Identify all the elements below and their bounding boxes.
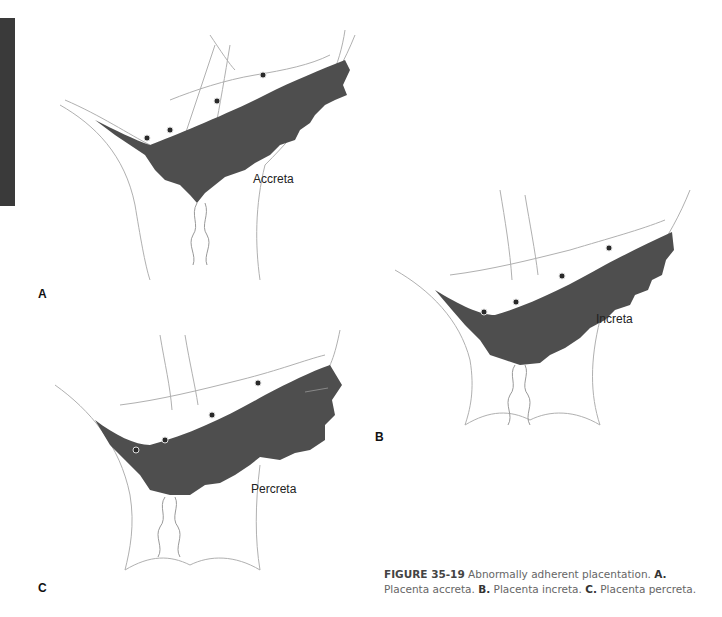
page-edge-tab	[0, 18, 15, 206]
uterus-accreta-illustration	[55, 5, 365, 280]
panel-letter-a: A	[38, 287, 47, 301]
panel-accreta	[55, 5, 365, 280]
uterus-percreta-illustration	[50, 325, 360, 580]
placenta-region	[95, 365, 342, 495]
figure-number: FIGURE 35-19	[384, 568, 465, 580]
placenta-region	[95, 60, 350, 203]
panel-letter-c: C	[38, 581, 47, 595]
panel-percreta	[50, 325, 360, 580]
part-c-letter: C.	[585, 583, 597, 595]
label-increta: Increta	[596, 312, 633, 326]
part-a-letter: A.	[654, 568, 666, 580]
part-b-letter: B.	[478, 583, 490, 595]
figure-caption: FIGURE 35-19 Abnormally adherent placent…	[384, 567, 714, 597]
panel-increta	[390, 180, 700, 430]
panel-letter-b: B	[375, 430, 384, 444]
part-c-text: Placenta percreta.	[600, 583, 696, 595]
label-accreta: Accreta	[253, 172, 294, 186]
part-b-text: Placenta increta.	[494, 583, 582, 595]
figure-title: Abnormally adherent placentation.	[468, 568, 651, 580]
label-percreta: Percreta	[251, 482, 296, 496]
uterus-increta-illustration	[390, 180, 700, 430]
part-a-text: Placenta accreta.	[384, 583, 475, 595]
placenta-region	[435, 232, 674, 365]
